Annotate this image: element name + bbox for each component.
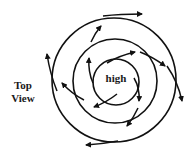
high-pressure-label: high: [99, 72, 133, 85]
view-label: Top View: [6, 79, 40, 105]
view-label-line1: Top: [6, 79, 40, 92]
wind-arrow-middle-top: [91, 26, 101, 42]
view-label-line2: View: [6, 92, 40, 105]
wind-arrow-inner-top: [107, 52, 135, 63]
wind-arrow-outer-top: [103, 14, 142, 16]
